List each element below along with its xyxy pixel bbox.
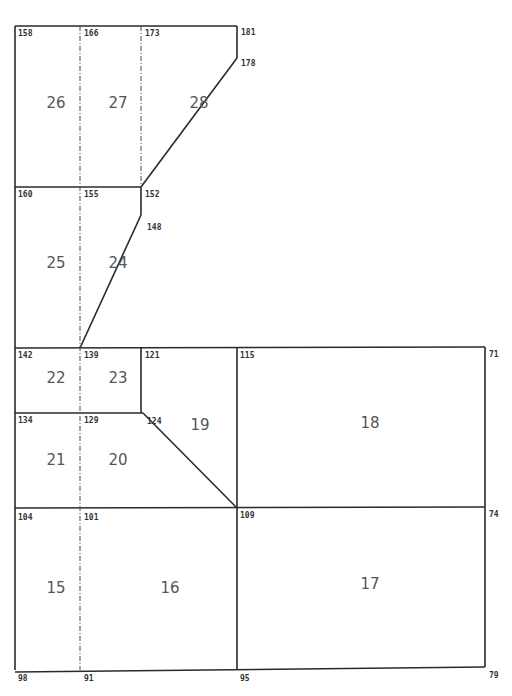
element-label: 22 [46, 369, 65, 387]
node-label: 181 [241, 28, 256, 37]
element-label: 20 [108, 451, 127, 469]
element-label: 26 [46, 94, 65, 112]
node-label: 95 [240, 674, 250, 683]
element-label: 18 [360, 414, 379, 432]
element-label: 16 [160, 579, 179, 597]
node-label: 148 [147, 223, 162, 232]
node-label: 74 [489, 510, 499, 519]
element-label: 17 [360, 575, 379, 593]
element-label: 19 [190, 416, 209, 434]
mesh-diagram: 1581661731811781601551521481421391211157… [0, 0, 512, 696]
element-label: 24 [108, 254, 127, 272]
mesh-edge [15, 347, 485, 348]
node-label: 91 [84, 674, 94, 683]
node-label: 158 [18, 29, 33, 38]
node-label: 155 [84, 190, 99, 199]
node-label: 139 [84, 351, 99, 360]
node-label: 178 [241, 59, 256, 68]
mesh-edge [15, 507, 485, 508]
element-label: 27 [108, 94, 127, 112]
node-number-labels: 1581661731811781601551521481421391211157… [18, 28, 499, 683]
element-label: 23 [108, 369, 127, 387]
node-label: 98 [18, 674, 28, 683]
element-label: 21 [46, 451, 65, 469]
node-label: 101 [84, 513, 99, 522]
node-label: 142 [18, 351, 33, 360]
node-label: 79 [489, 671, 499, 680]
element-label: 15 [46, 579, 65, 597]
node-label: 121 [145, 351, 160, 360]
node-label: 71 [489, 350, 499, 359]
mesh-edge [80, 215, 141, 348]
mesh-edge [141, 58, 237, 187]
node-label: 104 [18, 513, 33, 522]
node-label: 166 [84, 29, 99, 38]
node-label: 109 [240, 511, 255, 520]
node-label: 152 [145, 190, 160, 199]
element-label: 25 [46, 254, 65, 272]
node-label: 115 [240, 351, 255, 360]
mesh-edge [15, 667, 485, 672]
mesh-solid-edges [15, 26, 485, 672]
node-label: 129 [84, 416, 99, 425]
node-label: 160 [18, 190, 33, 199]
node-label: 173 [145, 29, 160, 38]
node-label: 124 [147, 417, 162, 426]
node-label: 134 [18, 416, 33, 425]
element-label: 28 [189, 94, 208, 112]
